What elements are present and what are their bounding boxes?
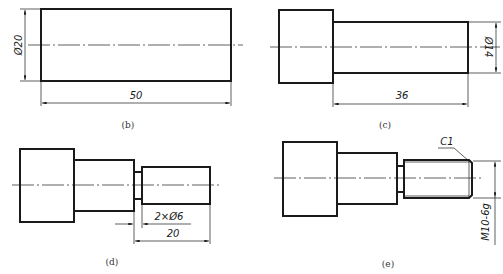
dim-label-thread: M10-6g (480, 203, 491, 241)
figure-d (12, 149, 219, 244)
shaft-middle (74, 160, 134, 211)
shaft-middle (337, 153, 397, 204)
dim-label-diameter: Ø14 (483, 36, 494, 58)
shaft-body (333, 22, 468, 73)
dim-label-chamfer: C1 (440, 136, 453, 147)
dim-label-groove: 2×Ø6 (155, 211, 184, 222)
undercut-groove (397, 166, 404, 192)
shaft-head (279, 10, 333, 83)
figure-caption: (b) (122, 120, 135, 130)
figure-caption: (e) (382, 259, 394, 269)
dim-label-length: 50 (130, 90, 143, 101)
dim-label-diameter: Ø20 (13, 35, 24, 57)
dim-label-length: 36 (396, 90, 409, 101)
threaded-end (404, 160, 472, 198)
shaft-end (142, 167, 210, 204)
shaft-head (283, 142, 337, 216)
figure-caption: (c) (379, 120, 391, 130)
shaft-head (20, 149, 74, 222)
drawing-canvas: Ø20 50 (b) Ø14 36 (c) 2×Ø6 20 (d) (0, 0, 503, 274)
undercut-groove (134, 172, 142, 199)
figure-caption: (d) (106, 257, 119, 267)
dim-label-length: 20 (167, 228, 180, 239)
figure-e (274, 142, 501, 245)
figure-c (270, 10, 501, 107)
